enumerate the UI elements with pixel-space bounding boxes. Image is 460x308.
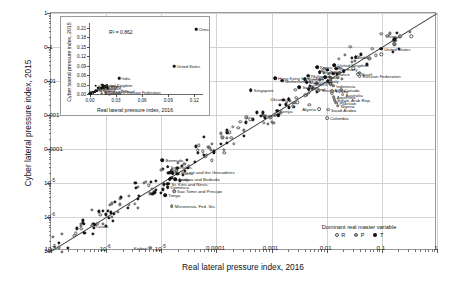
data-point xyxy=(255,111,258,114)
data-point-label: Kenya xyxy=(280,108,292,113)
data-point-labeled xyxy=(330,89,334,93)
data-point xyxy=(210,159,213,162)
y-axis-minor-tick xyxy=(49,125,52,126)
x-axis-minor-tick xyxy=(153,249,154,252)
y-axis-minor-tick xyxy=(49,61,52,62)
legend-label-T: T xyxy=(380,232,383,238)
x-axis-minor-tick xyxy=(178,249,179,252)
inset-y-tick-label: 0.12 xyxy=(77,54,86,59)
inset-y-tick-label: 0.06 xyxy=(77,73,86,78)
x-axis-minor-tick xyxy=(305,249,306,252)
data-point xyxy=(150,187,153,190)
data-point xyxy=(239,120,242,123)
data-point xyxy=(154,179,157,182)
x-axis-minor-tick xyxy=(98,249,99,252)
y-axis-minor-tick xyxy=(49,55,52,56)
data-point xyxy=(223,151,226,154)
y-axis-minor-tick xyxy=(49,139,52,140)
y-axis-minor-tick xyxy=(49,18,52,19)
data-point xyxy=(231,125,234,128)
inset-x-tick-label: 0.09 xyxy=(164,98,173,103)
legend-item-R[interactable]: R xyxy=(335,232,346,238)
gridline-horizontal xyxy=(51,149,435,150)
gridline-horizontal xyxy=(51,13,435,14)
y-axis-minor-tick xyxy=(49,222,52,223)
x-axis-minor-tick xyxy=(360,249,361,252)
y-axis-minor-tick xyxy=(49,188,52,189)
data-point xyxy=(133,202,136,205)
data-point-labeled xyxy=(339,88,343,92)
y-axis-minor-tick xyxy=(49,52,52,53)
data-point xyxy=(101,209,104,212)
data-point xyxy=(219,132,222,135)
y-axis-minor-tick xyxy=(49,207,52,208)
data-point xyxy=(83,231,86,234)
y-axis-minor-tick xyxy=(49,84,52,85)
inset-x-tick-label: 0.03 xyxy=(112,98,121,103)
inset-x-axis-title: Real lateral pressure index, 2016 xyxy=(61,107,209,113)
data-point xyxy=(228,130,231,133)
y-axis-minor-tick xyxy=(49,89,52,90)
data-point-labeled xyxy=(171,171,175,175)
data-point-label: Ukraine xyxy=(271,97,286,102)
data-point xyxy=(116,211,119,214)
x-axis-minor-tick xyxy=(398,249,399,252)
data-point-labeled xyxy=(280,79,284,83)
y-axis-minor-tick xyxy=(49,95,52,96)
inset-y-tick xyxy=(87,85,90,86)
inset-y-tick xyxy=(87,37,90,38)
y-axis-minor-tick xyxy=(49,123,52,124)
x-axis-minor-tick xyxy=(90,249,91,252)
data-point xyxy=(136,198,139,201)
data-point xyxy=(134,181,137,184)
data-point xyxy=(244,121,247,124)
legend-item-T[interactable]: T xyxy=(373,232,383,238)
data-point-label: India xyxy=(359,55,369,60)
y-axis-minor-tick xyxy=(49,99,52,100)
x-axis-minor-tick xyxy=(68,249,69,252)
inset-y-tick-label: 0.03 xyxy=(77,82,86,87)
y-axis-minor-tick xyxy=(49,31,52,32)
data-point xyxy=(226,136,229,139)
y-axis-minor-tick xyxy=(49,154,52,155)
data-point xyxy=(91,209,94,212)
y-axis-minor-tick xyxy=(49,91,52,92)
x-axis-minor-tick xyxy=(77,249,78,252)
data-point xyxy=(308,91,311,94)
data-point-label: Saudi Arabia xyxy=(331,107,356,112)
data-point xyxy=(51,235,54,238)
data-point-labeled xyxy=(315,65,319,69)
y-axis-tick xyxy=(47,13,51,14)
data-point-label: United States xyxy=(384,46,410,51)
data-point-label: Tuvalu xyxy=(95,223,108,228)
data-point xyxy=(374,54,377,57)
data-point xyxy=(99,213,102,216)
inset-data-point-label: Argentina xyxy=(104,90,121,95)
data-point-label: Ghana xyxy=(262,113,275,118)
y-axis-minor-tick xyxy=(49,193,52,194)
x-axis-minor-tick xyxy=(425,249,426,252)
inset-data-point-label: China xyxy=(199,27,209,32)
inset-y-tick xyxy=(87,47,90,48)
legend-title: Dominant real master variable xyxy=(300,224,418,230)
x-axis-minor-tick xyxy=(310,249,311,252)
inset-y-tick xyxy=(87,66,90,67)
data-point xyxy=(242,134,245,137)
y-axis-minor-tick xyxy=(49,15,52,16)
data-point xyxy=(203,135,206,138)
y-axis-minor-tick xyxy=(49,133,52,134)
data-point xyxy=(272,121,275,124)
data-point xyxy=(153,191,156,194)
x-axis-minor-tick xyxy=(353,249,354,252)
legend-item-P[interactable]: P xyxy=(354,232,364,238)
data-point-labeled xyxy=(317,89,321,93)
data-point xyxy=(245,116,248,119)
inset-data-point-label: United States xyxy=(177,64,200,69)
y-axis-minor-tick xyxy=(49,23,52,24)
y-axis-minor-tick xyxy=(49,152,52,153)
data-point xyxy=(185,158,188,161)
x-axis-minor-tick xyxy=(259,249,260,252)
data-point xyxy=(193,160,196,163)
inset-y-tick-label: 0.09 xyxy=(77,63,86,68)
data-point xyxy=(232,142,235,145)
